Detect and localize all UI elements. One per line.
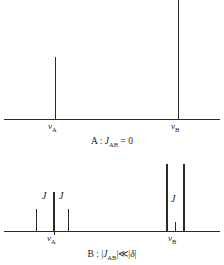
panel-b-tick-nu-b [175, 222, 176, 231]
panel-a-peak-nu-b [178, 0, 179, 119]
panel-b-peak-a2 [53, 192, 55, 231]
panel-a-caption: A : JAB = 0 [0, 136, 224, 150]
panel-b-peak-b1 [166, 164, 168, 231]
panel-b-peak-a3 [68, 209, 69, 231]
panel-a: νA νB A : JAB = 0 [0, 0, 224, 150]
panel-a-caption-separator: : [97, 136, 104, 146]
panel-b-baseline [4, 231, 220, 232]
panel-a-label-nu-b: νB [171, 122, 179, 133]
panel-b-peak-b2 [183, 164, 185, 231]
panel-a-label-nu-a: νA [48, 122, 57, 133]
panel-b-j-label-a-left: J [42, 191, 46, 201]
panel-a-caption-rest: = 0 [118, 136, 133, 146]
panel-b-nu-a-subscript: A [51, 238, 56, 245]
panel-a-nu-b-subscript: B [175, 126, 179, 133]
panel-b-caption-lt: ≪ [118, 249, 128, 259]
panel-b-j-label-b: J [171, 194, 175, 204]
panel-b-caption-delta-close: | [135, 249, 137, 259]
panel-b-peak-a1 [36, 209, 37, 231]
panel-b-caption: B : |JAB|≪|δ| [0, 249, 224, 263]
panel-b-nu-b-subscript: B [172, 238, 176, 245]
panel-a-nu-a-subscript: A [52, 126, 57, 133]
panel-b-label-nu-a: νA [47, 234, 56, 245]
panel-a-caption-j-sub: AB [109, 141, 118, 148]
panel-a-baseline [4, 119, 220, 120]
panel-b-j-label-a-right: J [59, 191, 63, 201]
panel-b-label-nu-b: νB [168, 234, 176, 245]
nmr-figure: νA νB A : JAB = 0 J J J [0, 0, 224, 265]
panel-b: J J J νA νB B : |JAB|≪|δ| [0, 150, 224, 265]
panel-a-peak-nu-a [55, 57, 56, 119]
